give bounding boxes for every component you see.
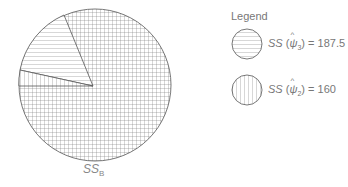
legend-label-ss-psi3: SS (^ψ3) = 187.5: [268, 37, 345, 51]
pie-label-ss: SS: [83, 162, 99, 176]
legend-label-ss-psi2: SS (^ψ2) = 160: [268, 83, 336, 97]
psi-hat-symbol: ^ψ: [289, 83, 297, 95]
legend-ss-text: SS: [268, 37, 283, 49]
legend-close-paren: ) =: [301, 83, 317, 95]
legend-ss-text: SS: [268, 83, 283, 95]
legend-open-paren: (: [283, 37, 290, 49]
legend-title: Legend: [231, 10, 268, 22]
pie-label-ssb: SSB: [83, 162, 104, 178]
hat-accent: ^: [290, 76, 294, 85]
pie-label-subscript: B: [99, 169, 104, 178]
legend-open-paren: (: [283, 83, 290, 95]
legend-icon-vertical-lines: [232, 75, 262, 105]
legend-icon-horizontal-lines: [232, 29, 262, 59]
psi-hat-symbol: ^ψ: [289, 37, 297, 49]
legend-value: 160: [318, 83, 336, 95]
legend-close-paren: ) =: [301, 37, 317, 49]
legend-value: 187.5: [318, 37, 346, 49]
hat-accent: ^: [290, 30, 294, 39]
